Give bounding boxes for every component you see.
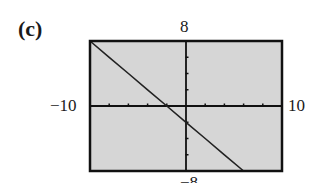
- graphing-calculator-screen: [0, 0, 316, 183]
